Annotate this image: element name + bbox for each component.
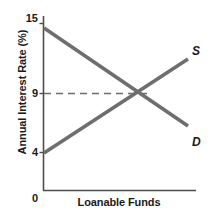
supply-curve (44, 59, 188, 153)
chart-plot-area (0, 0, 210, 215)
y-tick-label-0: 0 (14, 192, 38, 204)
demand-curve (44, 28, 188, 126)
y-axis-title: Annual Interest Rate (%) (16, 12, 28, 172)
x-axis-title: Loanable Funds (43, 196, 195, 208)
supply-curve-label: S (192, 45, 200, 57)
demand-curve-label: D (192, 136, 201, 148)
loanable-funds-chart: 15 9 4 0 S D Annual Interest Rate (%) Lo… (0, 0, 210, 215)
